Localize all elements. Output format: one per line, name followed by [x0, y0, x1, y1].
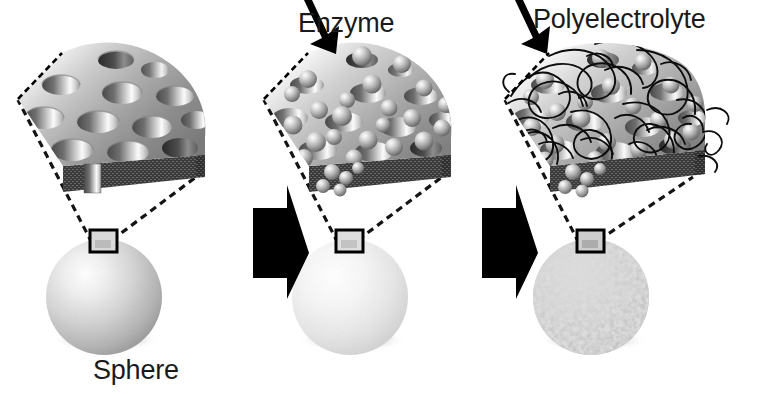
magnification-box-3-inner: [582, 240, 598, 248]
enzyme-bead: [324, 164, 340, 180]
enzyme-bead: [385, 138, 403, 156]
enzyme-bead: [310, 101, 328, 119]
enzyme-bead: [580, 172, 594, 186]
pore: [98, 51, 134, 69]
enzyme-bead: [339, 171, 353, 185]
pore: [102, 82, 142, 104]
enzyme-bead: [598, 133, 616, 151]
enzyme-bead: [334, 184, 347, 197]
pore: [77, 111, 119, 133]
enzyme-bead: [284, 86, 300, 102]
enzyme-bead: [576, 185, 589, 198]
magnification-box-1-inner: [95, 240, 111, 248]
enzyme-bead: [306, 132, 326, 152]
enzyme-bead: [332, 106, 352, 126]
enzyme-bead: [381, 100, 398, 117]
stage-panel-porous-sphere: [0, 0, 254, 394]
enzyme-bead: [594, 163, 606, 175]
enzyme-bead: [415, 132, 434, 151]
pore: [156, 86, 194, 106]
enzyme-bead: [299, 70, 317, 88]
enzyme-bead: [352, 46, 372, 66]
enzyme-bead: [438, 97, 454, 113]
label-enzyme: Enzyme: [298, 10, 394, 37]
enzyme-bead: [403, 109, 421, 127]
enzyme-bead: [359, 131, 378, 150]
pore: [263, 137, 289, 153]
sphere-3-grain: [533, 239, 649, 355]
pore: [132, 116, 172, 138]
enzyme-bead: [558, 180, 572, 194]
slab-right-face-2: [442, 152, 451, 177]
arrow-stage1-to-stage2: [243, 183, 317, 323]
enzyme-bead: [434, 120, 451, 137]
enzyme-bead: [339, 92, 355, 108]
pore-channel-1: [84, 164, 101, 193]
magnification-box-2-inner: [341, 240, 357, 248]
pore: [107, 141, 149, 163]
pore: [181, 111, 211, 129]
enzyme-bead: [352, 162, 364, 174]
enzyme-bead: [625, 98, 642, 115]
pore: [42, 75, 80, 95]
enzyme-bead: [326, 129, 342, 145]
slab-right-face-3: [695, 148, 705, 175]
pore: [141, 62, 169, 78]
slab-right-face-1: [196, 152, 205, 177]
enzyme-bead: [565, 164, 581, 180]
enzyme-bead: [393, 55, 411, 73]
enzyme-bead: [683, 124, 700, 141]
enzyme-bead: [284, 116, 303, 135]
arrow-stage2-to-stage3: [472, 183, 546, 323]
sphere-1-grain: [46, 239, 162, 355]
pore: [504, 137, 530, 153]
enzyme-bead: [635, 54, 652, 71]
enzyme-bead: [416, 80, 433, 97]
enzyme-bead: [316, 179, 330, 193]
pore: [162, 138, 198, 158]
label-polyelectrolyte: Polyelectrolyte: [533, 6, 706, 33]
enzyme-bead: [363, 75, 382, 94]
label-sphere: Sphere: [93, 357, 179, 384]
stage-1-graphic: [0, 0, 254, 394]
enzyme-bead: [376, 118, 391, 133]
figure-canvas: Enzyme Polyelectrolyte Sphere: [0, 0, 762, 394]
